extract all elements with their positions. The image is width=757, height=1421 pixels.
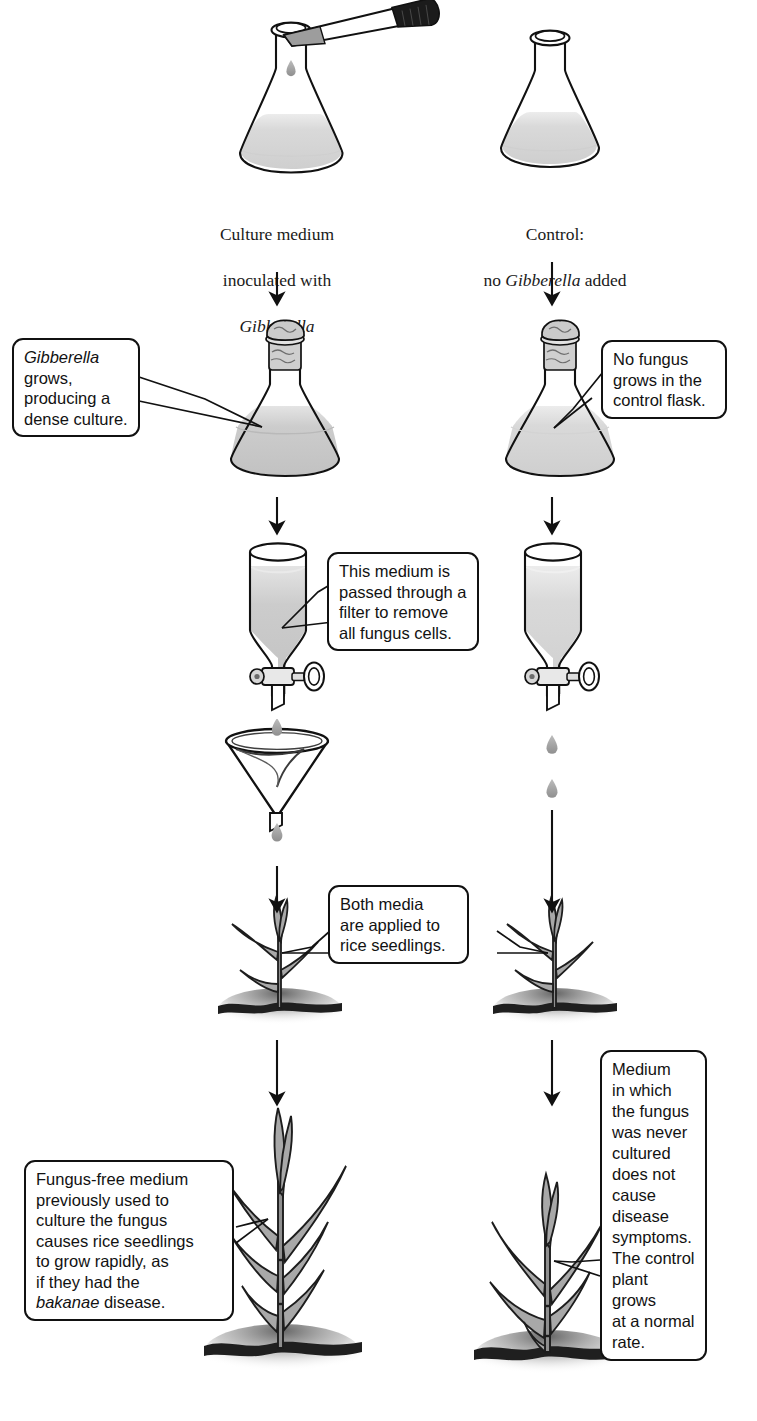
cotton-stopper-icon: [266, 320, 304, 370]
liquid-droplet-icon: [547, 735, 558, 798]
filter-funnel-icon: [220, 725, 338, 835]
top-label-control: Control: no Gibberella added: [430, 200, 680, 315]
caption-line: inoculated with: [152, 269, 402, 292]
callout-fungus-grows: Gibberella grows, producing a dense cult…: [12, 338, 140, 437]
callout-no-fungus: No fungus grows in the control flask.: [601, 340, 727, 419]
dropper-icon: [284, 0, 439, 46]
caption-line: no Gibberella added: [430, 269, 680, 292]
figure-canvas: Culture medium inoculated with Gibberell…: [0, 0, 757, 1421]
stoppered-flask-dense-culture: [222, 322, 352, 482]
callout-fungus-free-result: Fungus-free medium previously used to cu…: [24, 1160, 234, 1321]
separatory-funnel-icon: [501, 534, 621, 724]
caption-line: Control:: [430, 223, 680, 246]
arrow-down-icon: [277, 1040, 552, 1098]
callout-filter-step: This medium is passed through a filter t…: [327, 552, 479, 651]
rice-seedling-icon: [475, 890, 635, 1040]
erlenmeyer-flask-icon: [472, 18, 632, 196]
stopcock-valve-icon: [250, 663, 324, 691]
arrow-down-icon: [277, 497, 552, 527]
erlenmeyer-flask-icon: [196, 2, 436, 197]
callout-both-media: Both media are applied to rice seedlings…: [328, 885, 469, 964]
cotton-stopper-icon: [541, 320, 579, 370]
stopcock-valve-icon: [525, 663, 599, 691]
callout-control-result: Medium in which the fungus was never cul…: [600, 1050, 707, 1361]
caption-line: Culture medium: [152, 223, 402, 246]
